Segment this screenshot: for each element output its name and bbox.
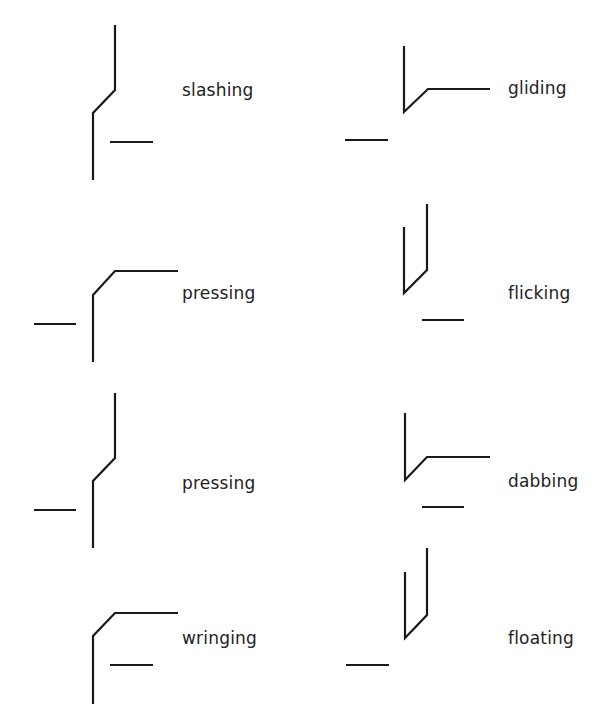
effort-symbols — [0, 0, 610, 727]
effort-actions-diagram: slashing gliding pressing flicking press… — [0, 0, 610, 727]
symbol-slashing — [93, 25, 153, 180]
label-pressing-1: pressing — [182, 285, 255, 302]
symbol-pressing-2 — [34, 393, 115, 548]
symbol-flicking — [404, 204, 464, 320]
label-dabbing: dabbing — [508, 473, 578, 490]
label-slashing: slashing — [182, 82, 254, 99]
label-floating: floating — [508, 630, 574, 647]
pressing-2-stroke-icon — [93, 393, 115, 548]
symbol-wringing — [93, 613, 178, 704]
label-wringing: wringing — [182, 630, 257, 647]
label-pressing-2: pressing — [182, 475, 255, 492]
flicking-stroke-icon — [404, 204, 427, 293]
label-flicking: flicking — [508, 285, 571, 302]
pressing-1-stroke-icon — [93, 271, 178, 362]
gliding-stroke-icon — [404, 46, 490, 112]
floating-stroke-icon — [405, 548, 427, 638]
slashing-stroke-icon — [93, 25, 115, 180]
symbol-gliding — [345, 46, 490, 140]
symbol-dabbing — [405, 413, 490, 507]
symbol-pressing-1 — [34, 271, 178, 362]
label-gliding: gliding — [508, 80, 567, 97]
wringing-stroke-icon — [93, 613, 178, 704]
symbol-floating — [346, 548, 427, 665]
dabbing-stroke-icon — [405, 413, 490, 480]
